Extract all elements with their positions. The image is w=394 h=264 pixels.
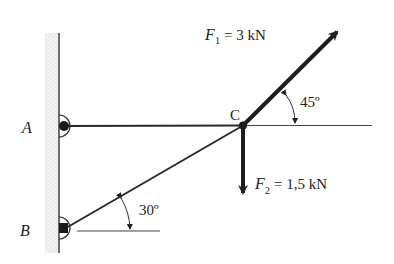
angle-arc-30	[121, 198, 130, 229]
pin-support-a	[59, 115, 70, 137]
wall	[45, 33, 59, 253]
label-b: B	[20, 222, 30, 239]
label-a: A	[21, 119, 32, 136]
label-c: C	[230, 107, 240, 123]
label-f1: F 1 = 3 kN	[204, 26, 266, 46]
f1-symbol: F	[204, 26, 215, 43]
pin-support-b	[59, 217, 70, 239]
f2-symbol: F	[254, 175, 265, 192]
force-f1-arrow	[243, 32, 337, 126]
wall-hatch	[45, 33, 59, 253]
angle-arc-45	[286, 95, 295, 123]
f1-value: = 3 kN	[224, 27, 266, 43]
f1-subscript: 1	[215, 35, 220, 46]
label-angle-45: 45º	[300, 94, 320, 110]
label-f2: F 2 = 1,5 kN	[254, 175, 327, 196]
label-angle-30: 30º	[139, 202, 159, 218]
f2-value: = 1,5 kN	[274, 176, 327, 192]
f2-subscript: 2	[265, 185, 270, 196]
force-diagram: A B C F 1 = 3 kN F 2 = 1,5 kN 45º 30º	[0, 0, 394, 264]
bar-ac	[64, 126, 243, 127]
